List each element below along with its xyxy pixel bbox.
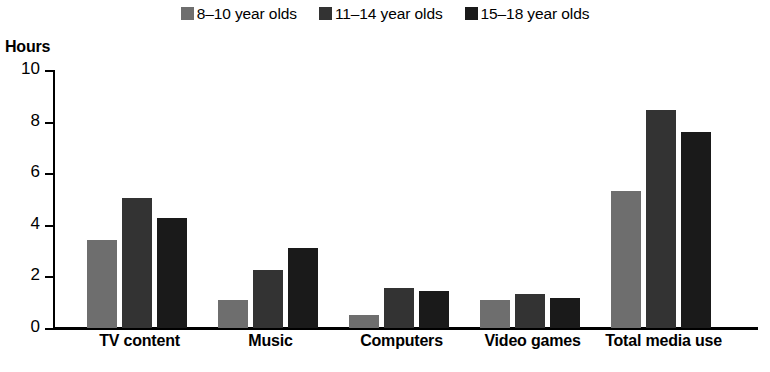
legend-label-15-18: 15–18 year olds — [481, 6, 590, 21]
x-axis-label-computers: Computers — [360, 332, 443, 350]
bar-group-video-games: Video games — [480, 70, 585, 328]
bar-0-1 — [122, 198, 152, 328]
y-tick-label-10: 10 — [21, 59, 40, 79]
bars — [349, 70, 449, 328]
bar-4-0 — [611, 191, 641, 328]
y-tick-label-8: 8 — [31, 111, 40, 131]
legend-label-8-10: 8–10 year olds — [197, 6, 297, 21]
bar-1-1 — [253, 270, 283, 328]
bar-3-2 — [550, 298, 580, 328]
bar-group-music: Music — [218, 70, 323, 328]
legend-swatch-15-18-icon — [465, 7, 478, 20]
bar-2-1 — [384, 288, 414, 328]
x-axis-label-video-games: Video games — [484, 332, 580, 350]
bar-0-2 — [157, 218, 187, 328]
y-tick-label-6: 6 — [31, 162, 40, 182]
bar-2-0 — [349, 315, 379, 328]
y-tick-8: 8 — [45, 122, 53, 124]
plot-area: 1086420 TV contentMusicComputersVideo ga… — [53, 70, 758, 328]
bar-group-computers: Computers — [349, 70, 454, 328]
y-tick-2: 2 — [45, 276, 53, 278]
bars — [611, 70, 711, 328]
bar-groups: TV contentMusicComputersVideo gamesTotal… — [55, 70, 758, 328]
x-axis-label-tv-content: TV content — [99, 332, 180, 350]
y-tick-label-2: 2 — [31, 265, 40, 285]
y-tick-label-4: 4 — [31, 214, 40, 234]
y-tick-4: 4 — [45, 225, 53, 227]
legend-item-15-18: 15–18 year olds — [465, 6, 590, 21]
x-axis-label-music: Music — [248, 332, 292, 350]
y-tick-label-0: 0 — [31, 317, 40, 337]
bars — [480, 70, 580, 328]
legend-label-11-14: 11–14 year olds — [335, 6, 443, 21]
bar-3-0 — [480, 300, 510, 328]
bar-0-0 — [87, 240, 117, 328]
y-tick-6: 6 — [45, 173, 53, 175]
y-tick-10: 10 — [45, 70, 53, 72]
bars — [87, 70, 187, 328]
x-axis-label-total-media-use: Total media use — [605, 332, 722, 350]
bar-group-total-media-use: Total media use — [611, 70, 716, 328]
legend-item-8-10: 8–10 year olds — [181, 6, 297, 21]
bar-chart: 8–10 year olds 11–14 year olds 15–18 yea… — [0, 0, 770, 372]
bar-group-tv-content: TV content — [87, 70, 192, 328]
bar-4-1 — [646, 110, 676, 328]
y-axis-title: Hours — [5, 38, 50, 56]
y-tick-0: 0 — [45, 328, 53, 330]
chart-legend: 8–10 year olds 11–14 year olds 15–18 yea… — [0, 6, 770, 21]
bar-1-0 — [218, 300, 248, 328]
bar-4-2 — [681, 132, 711, 328]
bar-1-2 — [288, 248, 318, 328]
bar-2-2 — [419, 291, 449, 328]
bar-3-1 — [515, 294, 545, 328]
legend-item-11-14: 11–14 year olds — [319, 6, 443, 21]
legend-swatch-8-10-icon — [181, 7, 194, 20]
bars — [218, 70, 318, 328]
legend-swatch-11-14-icon — [319, 7, 332, 20]
